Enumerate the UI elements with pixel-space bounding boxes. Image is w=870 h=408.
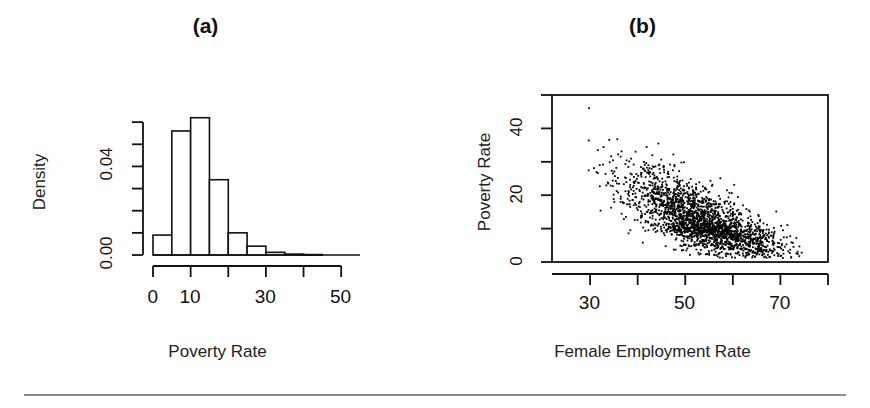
scatter-point (655, 182, 657, 184)
scatter-point (617, 177, 619, 179)
scatter-point (685, 224, 687, 226)
scatter-point (797, 251, 799, 253)
scatter-point (737, 240, 739, 242)
scatter-point (674, 180, 676, 182)
scatter-point (772, 250, 774, 252)
scatter-point (673, 249, 675, 251)
scatter-point (760, 251, 762, 253)
scatter-point (686, 248, 688, 250)
scatter-point (661, 230, 663, 232)
scatter-point (703, 198, 705, 200)
scatter-point (716, 238, 718, 240)
scatter-point (736, 224, 738, 226)
scatter-point (759, 219, 761, 221)
scatter-point (697, 193, 699, 195)
scatter-point (763, 229, 765, 231)
scatter-point (640, 172, 642, 174)
scatter-point (793, 246, 795, 248)
scatter-point (655, 219, 657, 221)
scatter-point (660, 189, 662, 191)
scatter-point (620, 198, 622, 200)
scatter-point (701, 239, 703, 241)
scatter-point (754, 256, 756, 258)
scatter-point (745, 244, 747, 246)
scatter-point (649, 192, 651, 194)
scatter-point (749, 230, 751, 232)
scatter-point (698, 254, 700, 256)
scatter-point (708, 252, 710, 254)
scatter-point (762, 231, 764, 233)
scatter-point (642, 192, 644, 194)
scatter-point (686, 183, 688, 185)
scatter-point (745, 252, 747, 254)
scatter-point (762, 242, 764, 244)
scatter-point (734, 226, 736, 228)
scatter-point (759, 241, 761, 243)
scatter-point (714, 225, 716, 227)
scatter-point (635, 151, 637, 153)
scatter-point (679, 214, 681, 216)
panel-b-y-tick-label: 40 (507, 118, 527, 137)
scatter-point (684, 230, 686, 232)
scatter-point (747, 251, 749, 253)
scatter-point (720, 224, 722, 226)
scatter-point (670, 201, 672, 203)
scatter-point (676, 234, 678, 236)
scatter-point (718, 253, 720, 255)
scatter-point (787, 250, 789, 252)
scatter-point (637, 182, 639, 184)
scatter-point (653, 166, 655, 168)
panel-a-x-tick-label: 10 (179, 286, 200, 308)
scatter-point (693, 200, 695, 202)
scatter-point (642, 168, 644, 170)
scatter-point (643, 199, 645, 201)
scatter-point (687, 224, 689, 226)
scatter-point (652, 196, 654, 198)
scatter-point (655, 193, 657, 195)
scatter-point (693, 208, 695, 210)
scatter-point (688, 218, 690, 220)
scatter-point (789, 252, 791, 254)
scatter-point (773, 232, 775, 234)
scatter-point (789, 249, 791, 251)
scatter-point (739, 243, 741, 245)
scatter-point (682, 240, 684, 242)
scatter-point (667, 211, 669, 213)
scatter-point (653, 229, 655, 231)
scatter-point (665, 192, 667, 194)
scatter-point (672, 169, 674, 171)
scatter-point (705, 200, 707, 202)
scatter-point (622, 201, 624, 203)
scatter-point (737, 226, 739, 228)
scatter-point (702, 244, 704, 246)
scatter-point (738, 252, 740, 254)
scatter-point (773, 227, 775, 229)
histogram-bars (153, 118, 322, 255)
scatter-point (730, 209, 732, 211)
scatter-point (687, 211, 689, 213)
scatter-point (593, 167, 595, 169)
scatter-point (698, 181, 700, 183)
scatter-point (659, 180, 661, 182)
scatter-point (704, 187, 706, 189)
scatter-point (717, 225, 719, 227)
scatter-point (612, 159, 614, 161)
scatter-point (668, 190, 670, 192)
scatter-point (692, 216, 694, 218)
scatter-point (760, 248, 762, 250)
scatter-point (726, 232, 728, 234)
scatter-point (749, 246, 751, 248)
scatter-point (629, 186, 631, 188)
scatter-point (679, 245, 681, 247)
scatter-point (674, 212, 676, 214)
scatter-point (724, 201, 726, 203)
scatter-point (694, 205, 696, 207)
scatter-point (716, 254, 718, 256)
scatter-point (731, 256, 733, 258)
scatter-point (713, 241, 715, 243)
scatter-point (666, 231, 668, 233)
scatter-point (661, 178, 663, 180)
scatter-point (711, 185, 713, 187)
scatter-point (724, 237, 726, 239)
scatter-point (651, 168, 653, 170)
